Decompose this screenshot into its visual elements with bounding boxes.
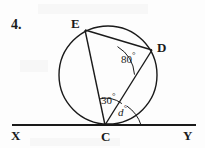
angle-label-ECD: 30°: [101, 92, 116, 106]
point-label-D: D: [157, 41, 166, 54]
chord-EC: [85, 30, 105, 125]
point-label-X: X: [11, 129, 20, 142]
angle-value-ECD: 30: [101, 94, 112, 106]
point-label-C: C: [101, 130, 110, 143]
point-label-E: E: [71, 17, 80, 30]
point-label-Y: Y: [183, 129, 192, 142]
diagram-canvas: [0, 0, 205, 148]
angle-label-DCY: d°: [118, 104, 127, 118]
geometry-question-figure: 4. E D C X Y 80° 30° d°: [0, 0, 205, 148]
angle-arc-DCY: [127, 106, 141, 125]
circle-shape: [59, 26, 157, 124]
question-number: 4.: [11, 18, 22, 32]
angle-value-at-D: 80: [121, 53, 132, 65]
degree-symbol-DCY: °: [124, 103, 128, 113]
degree-symbol-at-D: °: [132, 50, 136, 60]
degree-symbol-ECD: °: [112, 91, 116, 101]
angle-label-at-D: 80°: [121, 51, 136, 65]
